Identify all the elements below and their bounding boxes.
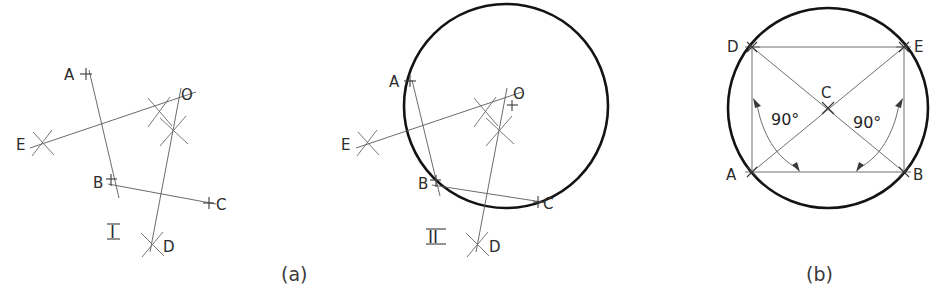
angle-label-right: 90° [853, 113, 881, 132]
bisector-bc-line-2 [476, 88, 507, 252]
point-label-c-2: C [543, 195, 553, 213]
step-two-roman: II [426, 227, 446, 247]
angle-arrow-left-end [792, 162, 800, 172]
arc-cross-e-2 [357, 130, 379, 156]
panel-b: D E A B C 90° 90° [726, 8, 928, 208]
figure-canvas: A B C D E O I [0, 0, 943, 301]
point-label-b: B [93, 174, 103, 192]
arc-cross-e [32, 130, 54, 156]
point-label-a-2: A [389, 73, 400, 91]
arc-cross-bc-lower-2 [486, 116, 514, 146]
arc-cross-d-2 [466, 232, 489, 257]
point-label-e: E [16, 136, 25, 154]
point-a-tick [80, 68, 92, 80]
panel-b-label-c: C [821, 84, 831, 102]
panel-b-label-d: D [727, 38, 739, 56]
caption-left: (a) [281, 263, 307, 285]
point-label-b-2: B [418, 175, 428, 193]
caption-right: (b) [806, 263, 833, 285]
panel-a-step-two: A B C D E O II [341, 4, 608, 257]
point-label-d: D [163, 238, 175, 256]
point-label-c: C [216, 196, 226, 214]
point-label-e-2: E [341, 136, 350, 154]
point-label-o: O [181, 86, 193, 104]
panel-a-step-one: A B C D E O I [16, 66, 226, 257]
point-label-d-2: D [489, 238, 501, 256]
panel-b-label-b: B [913, 166, 923, 184]
point-label-a: A [64, 66, 75, 84]
step-one-roman: I [107, 222, 120, 242]
arc-cross-d [141, 232, 164, 257]
panel-b-label-e: E [914, 38, 923, 56]
center-cross-c [822, 102, 834, 114]
point-label-o-2: O [513, 85, 525, 103]
angle-arrow-right-start [895, 98, 903, 108]
point-c-tick [203, 197, 214, 209]
panel-b-label-a: A [726, 166, 737, 184]
angle-arrow-left-start [753, 98, 761, 108]
angle-label-left: 90° [771, 110, 799, 129]
arc-cross-bc-lower [160, 116, 188, 146]
construction-figure: A B C D E O I [0, 0, 943, 301]
bisector-bc-line [150, 88, 181, 252]
angle-arrow-right-end [856, 162, 864, 172]
constructed-circle [404, 4, 608, 208]
